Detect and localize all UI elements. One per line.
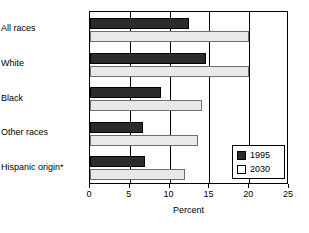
bar-other-races-1995 [90, 122, 143, 133]
legend-label-2030: 2030 [250, 165, 270, 174]
legend-item-1995: 1995 [237, 149, 284, 162]
bar-white-2030 [90, 66, 249, 77]
bar-black-2030 [90, 100, 202, 111]
category-label-white: White [1, 58, 85, 68]
x-tick-mark-10 [169, 184, 170, 188]
category-label-hispanic-origin: Hispanic origin* [1, 162, 85, 172]
x-tick-label-10: 10 [154, 189, 184, 200]
category-label-black: Black [1, 93, 85, 103]
bar-all-races-2030 [90, 31, 249, 42]
bar-black-1995 [90, 87, 161, 98]
bar-chart: All races White Black Other races Hispan… [0, 0, 309, 233]
x-tick-mark-25 [288, 184, 289, 188]
legend-label-1995: 1995 [250, 151, 270, 160]
legend-item-2030: 2030 [237, 163, 284, 176]
x-tick-mark-5 [129, 184, 130, 188]
x-tick-label-0: 0 [74, 189, 104, 200]
x-tick-mark-15 [208, 184, 209, 188]
x-tick-label-20: 20 [233, 189, 263, 200]
chart-legend: 1995 2030 [232, 145, 285, 179]
x-tick-mark-20 [248, 184, 249, 188]
bar-group-black [90, 81, 287, 116]
x-tick-label-15: 15 [193, 189, 223, 200]
bar-all-races-1995 [90, 18, 189, 29]
bar-hispanic-origin-2030 [90, 169, 185, 180]
category-label-other-races: Other races [1, 127, 85, 137]
legend-swatch-2030-icon [237, 165, 246, 174]
bar-group-white [90, 47, 287, 82]
bar-white-1995 [90, 53, 206, 64]
x-tick-label-5: 5 [114, 189, 144, 200]
legend-swatch-1995-icon [237, 151, 246, 160]
bar-group-all-races [90, 12, 287, 47]
bar-other-races-2030 [90, 135, 198, 146]
bar-hispanic-origin-1995 [90, 156, 145, 167]
x-tick-mark-0 [89, 184, 90, 188]
x-axis-title: Percent [89, 205, 288, 215]
category-label-all-races: All races [1, 23, 85, 33]
x-tick-label-25: 25 [273, 189, 303, 200]
